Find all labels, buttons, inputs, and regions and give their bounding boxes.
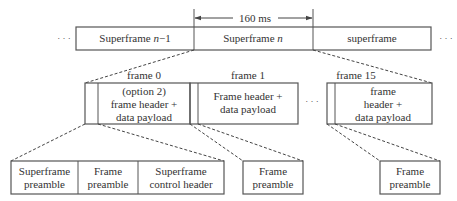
superframe-n: Superframe n (223, 32, 283, 44)
frame-15-preamble-group: Frame preamble (380, 161, 440, 194)
frame-1-line-1: Frame header + (213, 90, 282, 102)
frame-1-preamble-group: Frame preamble (243, 161, 303, 194)
frame-1: frame 1 Frame header + data payload (190, 69, 298, 124)
superframe-preamble-line-2: preamble (24, 178, 65, 190)
superframe-preamble-line-1: Superframe (19, 165, 70, 177)
frame-15-line-1: frame (370, 85, 396, 97)
control-header-line-2: control header (149, 178, 213, 190)
superframe-next: superframe (347, 32, 397, 44)
frame-1-preamble-line-1: Frame (259, 165, 287, 177)
frame-1-preamble-line-2: preamble (253, 178, 294, 190)
expand-f1-left (190, 124, 243, 161)
control-header-line-1: Superframe (155, 165, 206, 177)
frame-0-preamble-group: Superframe preamble Frame preamble Super… (11, 161, 224, 194)
frame-15-line-2: header + (364, 98, 402, 110)
frame-row: frame 0 (option 2) frame header + data p… (85, 69, 432, 124)
superframe-structure-diagram: 160 ms · · · Superframe n−1 Superframe n… (0, 0, 457, 201)
frame-15: frame 15 frame header + data payload (327, 69, 432, 124)
frame-15-preamble-line-1: Frame (396, 165, 424, 177)
superframe-row: · · · Superframe n−1 Superframe n superf… (57, 27, 453, 50)
expand-f15-left (327, 124, 380, 161)
expand-f15-right (335, 124, 440, 161)
expand-f0-right (98, 124, 224, 161)
frame-15-line-3: data payload (355, 111, 411, 123)
frame-1-title: frame 1 (231, 69, 265, 81)
frame-0-title: frame 0 (127, 69, 161, 81)
expand-f0-left (11, 124, 85, 161)
ellipsis-left: · · · (57, 33, 71, 43)
frame-0-line-3: data payload (116, 111, 172, 123)
timing-annotation: 160 ms (194, 9, 313, 27)
expand-f1-right (198, 124, 303, 161)
frame-1-line-2: data payload (220, 103, 276, 115)
frame-0: frame 0 (option 2) frame header + data p… (85, 69, 190, 124)
expansion-lines-bottom (11, 124, 440, 161)
frame-preamble-line-1: Frame (94, 165, 122, 177)
frame-0-line-2: frame header + (111, 98, 178, 110)
frame-preamble-line-2: preamble (88, 178, 129, 190)
superframe-n-minus-1: Superframe n−1 (99, 32, 170, 44)
frame-0-line-1: (option 2) (122, 85, 166, 98)
frames-ellipsis: · · · (305, 96, 319, 106)
preamble-row: Superframe preamble Frame preamble Super… (11, 161, 440, 194)
frame-15-preamble-line-2: preamble (390, 178, 431, 190)
frame-15-title: frame 15 (336, 69, 376, 81)
ellipsis-right: · · · (439, 33, 453, 43)
timing-label: 160 ms (239, 12, 271, 24)
